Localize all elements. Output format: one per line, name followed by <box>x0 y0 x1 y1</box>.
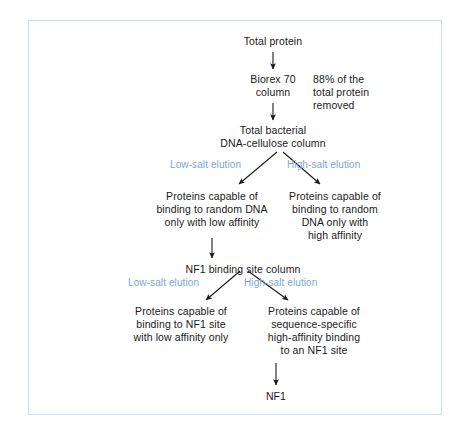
node-random-dna-low-affinity: Proteins capable of binding to random DN… <box>148 190 276 229</box>
figure-root: Total protein Biorex 70 column 88% of th… <box>0 0 470 440</box>
node-nf1-final: NF1 <box>243 390 309 403</box>
node-dna-cellulose-column: Total bacterial DNA-cellulose column <box>203 124 343 150</box>
node-nf1-low-affinity: Proteins capable of binding to NF1 site … <box>118 305 244 344</box>
node-nf1-binding-site-column: NF1 binding site column <box>173 263 313 276</box>
node-total-protein: Total protein <box>213 35 333 48</box>
node-biorex-70-column: Biorex 70 column <box>223 73 323 99</box>
node-nf1-high-affinity: Proteins capable of sequence-specific hi… <box>252 305 376 357</box>
label-high-salt-elution-2: High-salt elution <box>244 277 317 289</box>
label-low-salt-elution-2: Low-salt elution <box>128 277 199 289</box>
note-total-protein-removed: 88% of the total protein removed <box>313 73 399 112</box>
node-random-dna-high-affinity: Proteins capable of binding to random DN… <box>280 190 390 242</box>
label-high-salt-elution-1: High-salt elution <box>287 159 360 171</box>
label-low-salt-elution-1: Low-salt elution <box>170 159 241 171</box>
